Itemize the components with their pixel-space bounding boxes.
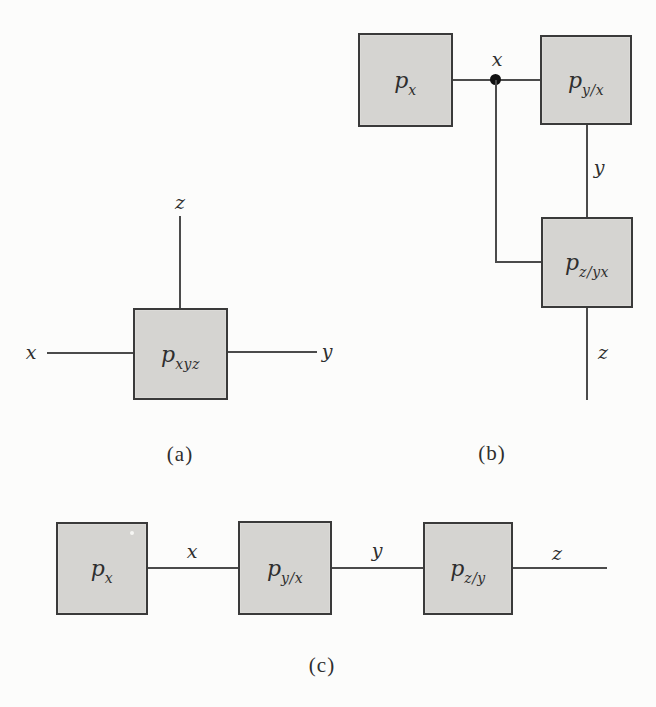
fig-c-factor-label-pzy: pz/y (450, 556, 486, 581)
fig-a-variable-label-z: z (175, 191, 185, 213)
fig-c-variable-label-x: x (187, 540, 198, 562)
fig-b-factor-box-pyx: py/x (540, 35, 632, 125)
fig-c-factor-box-pyx: py/x (238, 521, 332, 615)
fig-c-factor-label-px: px (91, 556, 114, 581)
fig-c-edge-z-line (513, 567, 607, 569)
fig-a-edge-z-line (179, 216, 181, 308)
fig-b-factor-label-pzyx: pz/yx (565, 250, 609, 275)
fig-c-caption: (c) (309, 653, 335, 678)
fig-b-edge-z-line (586, 308, 588, 400)
fig-b-edge-y-line (586, 125, 588, 217)
fig-b-factor-box-pzyx: pz/yx (541, 217, 633, 308)
fig-b-edge-x-branch-elbow (495, 261, 541, 263)
fig-a-caption: (a) (167, 442, 193, 467)
fig-c-factor-label-pyx: py/x (267, 556, 303, 581)
fig-c-factor-box-px: px (56, 522, 148, 615)
fig-a-factor-box-pxyz: pxyz (133, 308, 228, 400)
fig-b-factor-label-pyx: py/x (568, 68, 604, 93)
fig-a-edge-x-line (47, 352, 133, 354)
fig-b-caption: (b) (478, 441, 506, 466)
fig-b-factor-label-px: px (394, 68, 417, 93)
fig-c-factor-box-pzy: pz/y (423, 522, 513, 615)
fig-a-variable-label-x: x (26, 341, 37, 363)
fig-b-variable-label-x: x (492, 48, 503, 70)
fig-b-variable-label-y: y (594, 156, 605, 178)
fig-c-variable-label-y: y (372, 539, 383, 561)
fig-a-variable-label-y: y (322, 340, 333, 362)
fig-c-edge-x-line (148, 567, 238, 569)
fig-c-edge-y-line (332, 567, 423, 569)
fig-b-variable-label-z: z (598, 341, 608, 363)
fig-c-variable-label-z: z (552, 542, 562, 564)
fig-a-factor-label-pxyz: pxyz (161, 342, 200, 367)
fig-b-factor-box-px: px (358, 33, 453, 127)
fig-a-edge-y-line (228, 351, 317, 353)
factor-graph-figure: z x y pxyz (a) px x py/x y pz/yx z (b) p… (0, 0, 656, 707)
fig-b-edge-x-branch-vertical (495, 80, 497, 262)
scan-artifact-speck (130, 531, 134, 535)
